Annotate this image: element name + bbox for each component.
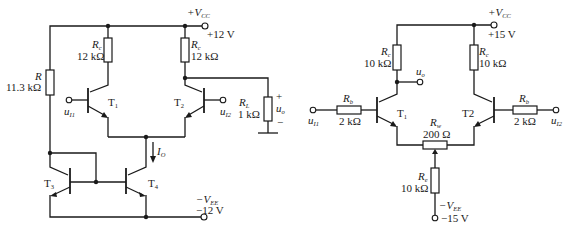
resistor-rc1 [393,45,401,70]
rc1-value: 10 kΩ [364,57,391,69]
output-label: uo [276,102,286,115]
vcc-rail [50,26,202,70]
output-label: uo [416,65,426,78]
input-ui1-terminal [66,97,72,103]
rw-value: 200 Ω [423,128,450,140]
circuit-diagrams: +VCC +12 V Rc 12 kΩ Rc 12 kΩ R 11.3 kΩ R… [0,0,572,239]
resistor-rc1 [104,38,112,62]
input2-label: uI2 [220,105,232,118]
input-ui2-terminal [220,97,226,103]
t1-label: T1 [108,96,118,109]
resistor-rc2 [181,38,189,62]
resistor-re [431,168,439,193]
output-plus: + [276,90,282,102]
rl-value: 1 kΩ [238,108,260,120]
resistor-r [46,70,54,95]
transistor-t1 [377,97,423,145]
transistor-t4 [126,168,146,217]
input-ui2-terminal [553,107,559,113]
rb2-label: Rb [518,92,530,105]
resistor-rc2 [470,45,478,70]
rb1-value: 2 kΩ [339,115,361,127]
transistor-t1 [72,88,108,137]
resistor-rb2 [513,106,537,114]
input-ui1-terminal [310,107,316,113]
resistor-rl [264,97,272,121]
rc2-value: 10 kΩ [479,57,506,69]
vee-value: −15 V [441,212,469,224]
r-value: 11.3 kΩ [6,81,41,93]
potentiometer-rw [423,141,447,149]
rc2-value: 12 kΩ [191,50,218,62]
vee-label: −VEE [439,199,461,212]
rb2-value: 2 kΩ [514,115,536,127]
wiper-arrow-icon [432,149,438,154]
vee-value: −12 V [196,204,224,216]
vcc-rail [397,25,491,45]
t2-label: T2 [174,96,184,109]
left-circuit: +VCC +12 V Rc 12 kΩ Rc 12 kΩ R 11.3 kΩ R… [6,6,286,220]
re-value: 10 kΩ [401,182,428,194]
t3-label: T3 [44,177,54,190]
vcc-value: +12 V [207,28,235,40]
transistor-t3 [50,168,146,217]
vee-terminal [432,215,438,221]
io-label: IO [156,145,166,158]
transistor-t2 [474,97,513,127]
output-minus: − [277,116,283,128]
output-terminal [417,79,423,85]
resistor-rb1 [337,106,361,114]
t1-label: T1 [397,107,407,120]
vcc-label: +VCC [187,6,210,19]
rb1-label: Rb [342,92,354,105]
input1-label: uI1 [308,114,319,127]
rc1-value: 12 kΩ [77,50,104,62]
t2-label: T2 [462,107,474,119]
right-circuit: +VCC +15 V Rc 10 kΩ Rc 10 kΩ uo Rb 2 kΩ … [308,6,563,224]
transistor-t2 [185,88,220,137]
vcc-label: +VCC [488,6,511,19]
t4-label: T4 [148,177,159,190]
vcc-value: +15 V [488,28,516,40]
input1-label: uI1 [64,105,75,118]
input2-label: uI2 [551,114,563,127]
